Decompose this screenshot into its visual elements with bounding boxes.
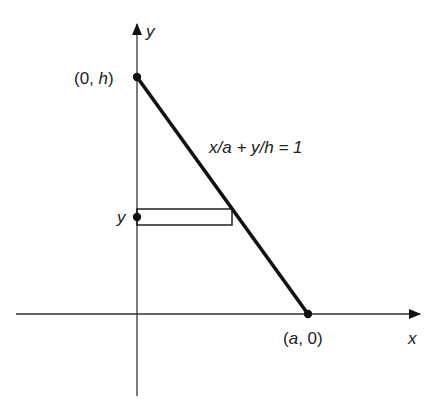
x-intercept-label: (a, 0) xyxy=(283,329,323,348)
intercept-line xyxy=(137,77,308,314)
x-axis-label: x xyxy=(407,329,417,348)
horizontal-strip xyxy=(137,209,232,225)
y-intercept-point xyxy=(133,73,141,81)
y-point xyxy=(133,213,141,221)
y-point-label: y xyxy=(116,208,127,227)
line-equation: x/a + y/h = 1 xyxy=(208,138,303,157)
y-axis-label: y xyxy=(145,22,156,41)
diagram-canvas: y x (0, h) (a, 0) y x/a + y/h = 1 xyxy=(0,0,439,404)
x-intercept-point xyxy=(304,310,312,318)
y-intercept-label: (0, h) xyxy=(74,69,114,88)
